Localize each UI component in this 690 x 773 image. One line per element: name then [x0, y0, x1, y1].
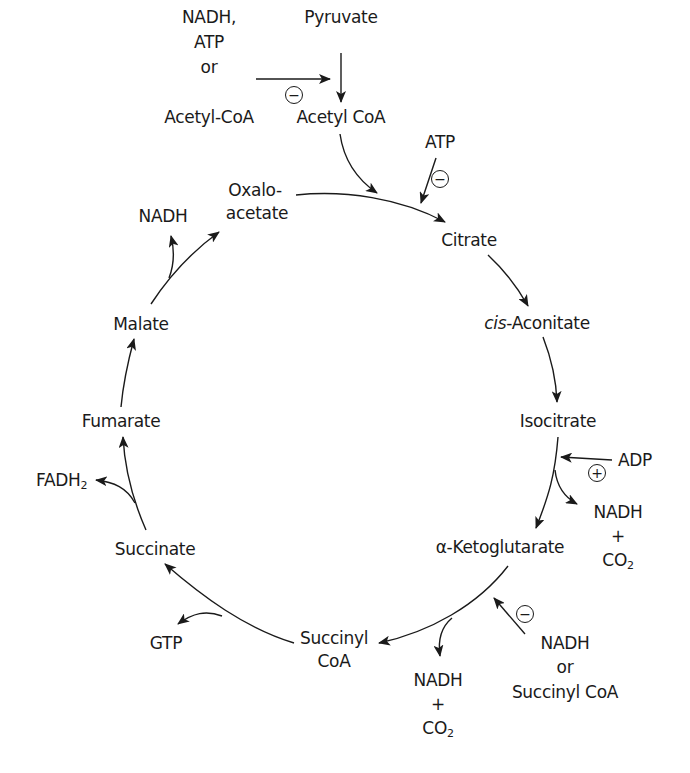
- arrow-isocitrate-to-akg: [536, 437, 558, 528]
- isocitrate-label: Isocitrate: [520, 410, 597, 432]
- malate-nadh-label: NADH: [138, 205, 187, 227]
- arrow-acetylcoa-to-citrate: [340, 134, 377, 193]
- atp-regulator-label: ATP: [425, 131, 455, 153]
- isocitrate-plus-label: +: [611, 525, 625, 547]
- co2-subscript: 2: [627, 559, 634, 572]
- akg-inhibitor-line-3: Succinyl CoA: [512, 681, 618, 703]
- fadh-text: FADH: [36, 470, 81, 490]
- co-text: CO: [422, 718, 447, 738]
- isocitrate-nadh-label: NADH: [593, 501, 642, 523]
- pdh-inhibitor-line-2: ATP: [194, 31, 224, 53]
- arrow-malate-to-oxaloacetate: [151, 232, 219, 304]
- inhibition-minus-icon: −: [431, 170, 449, 188]
- arrow-isocitrate-nadh-co2: [555, 470, 577, 504]
- arrow-akg-nadh-co2: [439, 618, 452, 656]
- arrow-akg-to-succinylcoa: [379, 566, 508, 643]
- akg-nadh-label: NADH: [413, 669, 462, 691]
- aconitate-text: -Aconitate: [506, 313, 590, 333]
- succinyl-coa-label-line-2: CoA: [317, 650, 350, 672]
- pyruvate-label: Pyruvate: [304, 6, 377, 28]
- alpha-ketoglutarate-label: α-Ketoglutarate: [436, 536, 565, 558]
- arrow-succinylcoa-gtp: [178, 613, 222, 624]
- adp-regulator-label: ADP: [618, 449, 652, 471]
- citrate-label: Citrate: [441, 229, 497, 251]
- isocitrate-co2-label: CO2: [602, 549, 633, 571]
- akg-plus-label: +: [431, 693, 445, 715]
- pdh-inhibitor-line-3: or: [201, 56, 218, 78]
- fadh2-label: FADH2: [36, 469, 87, 491]
- arrow-adp-activation: [561, 457, 612, 460]
- oxaloacetate-label-line-2: acetate: [226, 202, 288, 224]
- activation-plus-icon: +: [588, 464, 606, 482]
- acetyl-coa-label: Acetyl CoA: [297, 106, 386, 128]
- cis-prefix: cis: [484, 313, 506, 333]
- akg-inhibitor-line-2: or: [557, 656, 574, 678]
- succinyl-coa-label-line-1: Succinyl: [300, 627, 368, 649]
- inhibition-minus-icon: −: [516, 605, 534, 623]
- fadh-subscript: 2: [81, 479, 88, 492]
- fumarate-label: Fumarate: [82, 410, 161, 432]
- arrow-fumarate-to-malate: [121, 339, 134, 407]
- akg-inhibitor-line-1: NADH: [540, 632, 589, 654]
- cis-aconitate-label: cis-Aconitate: [484, 312, 590, 334]
- inhibition-minus-icon: −: [285, 86, 303, 104]
- succinate-label: Succinate: [115, 538, 196, 560]
- oxaloacetate-label-line-1: Oxalo-: [228, 179, 282, 201]
- co-text: CO: [602, 550, 627, 570]
- arrow-cisaconitate-to-isocitrate: [543, 337, 557, 402]
- arrow-malate-nadh: [169, 236, 173, 278]
- arrow-succinylcoa-to-succinate: [165, 564, 294, 643]
- pdh-inhibitor-line-1: NADH,: [182, 6, 236, 28]
- pdh-inhibitor-line-4: Acetyl-CoA: [164, 106, 254, 128]
- citric-acid-cycle-diagram: Pyruvate Acetyl CoA NADH, ATP or Acetyl-…: [0, 0, 690, 773]
- malate-label: Malate: [113, 313, 169, 335]
- arrow-succinate-fadh2: [96, 480, 135, 503]
- gtp-label: GTP: [150, 632, 182, 654]
- akg-co2-label: CO2: [422, 717, 453, 739]
- co2-subscript: 2: [447, 727, 454, 740]
- arrow-succinate-to-fumarate: [123, 437, 146, 530]
- arrow-citrate-to-cisaconitate: [488, 255, 528, 306]
